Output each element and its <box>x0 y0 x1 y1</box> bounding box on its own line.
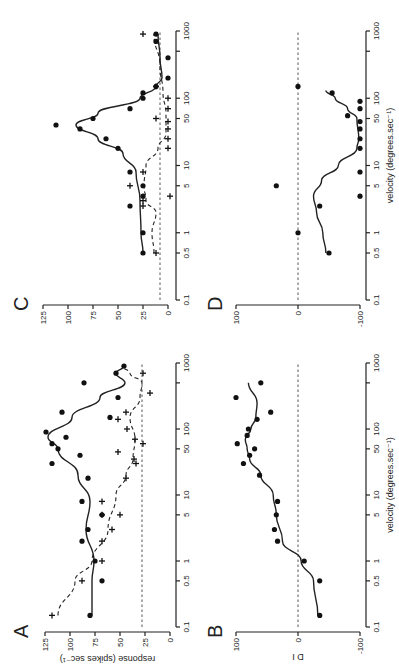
x-tick-label: 5 <box>182 512 191 517</box>
x-tick-label: 50 <box>372 444 381 453</box>
y-tick-label: 25 <box>141 637 150 646</box>
fit-solid <box>314 91 359 253</box>
x-tick-label: 0.5 <box>372 575 381 587</box>
data-point-dot <box>140 250 145 255</box>
data-point-dot <box>103 136 108 141</box>
fit-solid <box>48 366 125 615</box>
x-tick-label: 1 <box>182 230 191 235</box>
data-point-dot <box>115 395 120 400</box>
data-point-dot <box>153 39 158 44</box>
y-axis-label: response (spikes sec⁻¹) <box>60 654 156 664</box>
data-point-dot <box>258 380 263 385</box>
x-tick-label: 1 <box>182 558 191 563</box>
data-point-dot <box>275 499 280 504</box>
data-point-dot <box>357 146 362 151</box>
data-point-dot <box>79 499 84 504</box>
data-point-dot <box>247 453 252 458</box>
panel-c: C02550751001250.10.51510501001000 <box>10 22 191 325</box>
y-tick-label: 0 <box>164 310 173 315</box>
x-tick-label: 1 <box>372 558 381 563</box>
data-point-dot <box>140 90 145 95</box>
x-tick-label: 0.5 <box>372 247 381 259</box>
data-point-dot <box>357 136 362 141</box>
data-point-dot <box>55 446 60 451</box>
x-tick-label: 50 <box>182 444 191 453</box>
data-point-dot <box>272 527 277 532</box>
panel-label: D <box>204 297 226 311</box>
data-point-dot <box>257 473 262 478</box>
data-point-dot <box>49 441 54 446</box>
data-point-dot <box>241 461 246 466</box>
figure-stage: A02550751001250.10.51510501001000respons… <box>0 0 399 668</box>
data-point-dot <box>43 429 48 434</box>
data-point-dot <box>357 106 362 111</box>
data-point-dot <box>357 99 362 104</box>
data-point-dot <box>53 122 58 127</box>
data-point-dot <box>317 203 322 208</box>
data-point-dot <box>87 613 92 618</box>
data-point-dot <box>115 146 120 151</box>
data-point-dot <box>235 441 240 446</box>
data-point-dot <box>345 113 350 118</box>
y-tick-label: 100 <box>232 310 241 324</box>
x-tick-label: 50 <box>182 113 191 122</box>
data-point-dot <box>59 410 64 415</box>
data-point-dot <box>81 380 86 385</box>
fit-dashed <box>144 34 166 253</box>
x-tick-label: 0.1 <box>372 294 381 306</box>
y-tick-label: 75 <box>91 637 100 646</box>
data-point-dot <box>317 578 322 583</box>
data-point-dot <box>246 426 251 431</box>
data-point-dot <box>295 230 300 235</box>
y-tick-label: -100 <box>356 637 365 654</box>
x-tick-label: 100 <box>182 422 191 436</box>
data-point-dot <box>77 126 82 131</box>
y-tick-label: -100 <box>356 310 365 327</box>
x-tick-label: 10 <box>182 490 191 499</box>
y-tick-label: 50 <box>114 310 123 319</box>
data-point-dot <box>92 558 97 563</box>
data-point-dot <box>326 250 331 255</box>
x-tick-label: 10 <box>372 161 381 170</box>
y-tick-label: 100 <box>66 637 75 651</box>
data-point-dot <box>127 203 132 208</box>
data-point-dot <box>252 446 257 451</box>
data-point-dot <box>233 395 238 400</box>
x-tick-label: 0.5 <box>182 247 191 259</box>
x-tick-label: 0.5 <box>182 575 191 587</box>
panel-d: D-10001000.10.51510501001000velocity (de… <box>204 22 395 327</box>
fit-dashed <box>58 366 142 615</box>
data-point-dot <box>254 417 259 422</box>
data-point-dot <box>77 453 82 458</box>
data-point-dot <box>49 461 54 466</box>
data-point-dot <box>357 194 362 199</box>
x-tick-label: 1000 <box>372 354 381 372</box>
data-point-dot <box>140 96 145 101</box>
y-tick-label: 125 <box>41 637 50 651</box>
x-tick-label: 1000 <box>182 22 191 40</box>
y-axis-label: D I <box>292 652 304 662</box>
x-tick-label: 5 <box>182 183 191 188</box>
data-point-dot <box>357 126 362 131</box>
data-point-dot <box>274 183 279 188</box>
x-tick-label: 0.1 <box>182 621 191 633</box>
data-point-dot <box>127 106 132 111</box>
x-tick-label: 5 <box>372 183 381 188</box>
data-point-dot <box>107 415 112 420</box>
x-tick-label: 50 <box>372 113 381 122</box>
y-tick-label: 100 <box>232 637 241 651</box>
x-tick-label: 1000 <box>372 22 381 40</box>
y-tick-label: 100 <box>64 310 73 324</box>
data-point-dot <box>140 230 145 235</box>
data-point-dot <box>268 410 273 415</box>
panel-label: B <box>204 625 226 638</box>
x-tick-label: 100 <box>372 91 381 105</box>
data-point-dot <box>90 116 95 121</box>
panel-label: C <box>10 297 32 311</box>
data-point-dot <box>317 613 322 618</box>
data-point-dot <box>153 31 158 36</box>
x-axis-label: velocity (degrees.sec⁻¹) <box>385 437 395 533</box>
x-tick-label: 1 <box>372 230 381 235</box>
data-point-dot <box>140 183 145 188</box>
y-tick-label: 0 <box>294 310 303 315</box>
